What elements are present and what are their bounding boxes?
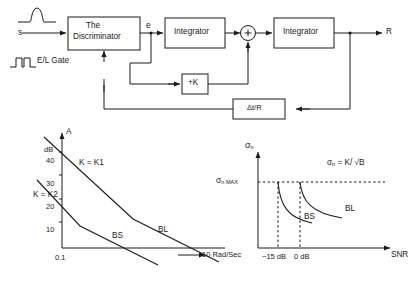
bode-y-axis-label: A: [66, 128, 71, 136]
bode-y-unit-label: dB: [44, 146, 53, 154]
noise-series-bs-label: BS: [304, 213, 315, 221]
discriminator-line2: Discriminator: [73, 33, 121, 41]
bode-y-tick-30: 30: [46, 180, 54, 188]
dt-r-feedback-path: [104, 85, 233, 109]
bode-bl-label: BL: [158, 226, 168, 234]
noise-x-tick-minus15db: −15 dB: [262, 253, 286, 261]
gaussian-pulse-waveform-icon: [18, 8, 56, 22]
gain-to-sum-path: [208, 47, 248, 84]
error-signal-label: e: [146, 22, 151, 30]
integrator-1-label: Integrator: [174, 28, 209, 36]
bode-x-axis-label: 10 Rad/Sec: [202, 251, 241, 259]
noise-x-tick-0db: 0 dB: [294, 253, 309, 261]
noise-x-axis-label: SNR: [391, 251, 408, 259]
input-signal-label: s: [18, 29, 22, 37]
noise-y-axis-label: σn: [245, 141, 254, 150]
sigma-max-label: σn MAX: [216, 176, 238, 185]
integrator-2-label: Integrator: [283, 28, 318, 36]
bode-y-tick-40: 40: [46, 157, 54, 165]
output-signal-label: R: [386, 28, 392, 36]
bode-series-k1-label: K = K1: [79, 159, 104, 167]
gate-label: E/L Gate: [37, 57, 69, 65]
bode-bs-label: BS: [112, 232, 123, 240]
figure-canvas: s The Discriminator E/L Gate e Integrato…: [0, 0, 415, 281]
discriminator-line1: The: [86, 22, 100, 30]
bode-y-tick-20: 20: [46, 203, 54, 211]
delta-t-over-r-label: Δt/R: [247, 104, 262, 112]
output-feedback-path: [300, 33, 350, 109]
bode-y-tick-10: 10: [46, 226, 54, 234]
noise-plot-axes: [258, 152, 390, 248]
diagram-vector-layer: [0, 0, 415, 281]
square-pulse-waveform-icon: [10, 58, 36, 67]
bode-series-k2-label: K = K2: [33, 191, 58, 199]
bode-plot-axes: [62, 133, 225, 255]
gain-block-label: +K: [188, 79, 198, 87]
bode-curve-k1: [44, 137, 219, 262]
noise-series-bl-label: BL: [345, 205, 355, 213]
noise-equation-label: σn = K/ √B: [327, 159, 365, 167]
gain-feedback-path: [130, 33, 176, 84]
bode-x-tick-low: 0.1: [55, 254, 65, 262]
